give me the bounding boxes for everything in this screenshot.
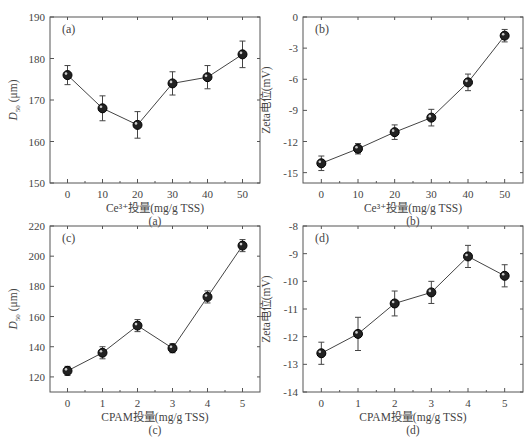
data-point-highlight bbox=[319, 160, 322, 163]
x-tick-label: 0 bbox=[65, 188, 71, 200]
data-point-highlight bbox=[319, 350, 322, 353]
data-point-highlight bbox=[205, 74, 208, 77]
y-tick-label: -3 bbox=[289, 42, 299, 54]
x-tick-label: 5 bbox=[502, 397, 508, 409]
data-point bbox=[238, 50, 247, 59]
data-point-highlight bbox=[465, 254, 468, 257]
data-point-highlight bbox=[429, 115, 432, 118]
x-tick-label: 5 bbox=[240, 397, 246, 409]
x-tick-label: 10 bbox=[353, 188, 365, 200]
x-tick-label: 0 bbox=[319, 188, 325, 200]
data-point bbox=[63, 71, 72, 80]
x-tick-label: 50 bbox=[237, 188, 249, 200]
data-point bbox=[238, 241, 247, 250]
x-axis-label: Ce³⁺投量(mg/g TSS) bbox=[106, 201, 204, 215]
chart-panel-a: 15016017018019001020304050(a)Ce³⁺投量(mg/g… bbox=[7, 11, 260, 228]
y-tick-label: 120 bbox=[29, 371, 46, 383]
y-tick-label: -12 bbox=[283, 136, 298, 148]
x-axis-label: CPAM投量(mg/g TSS) bbox=[359, 410, 466, 424]
data-point-highlight bbox=[392, 301, 395, 304]
panel-label: (a) bbox=[62, 22, 75, 36]
x-tick-label: 30 bbox=[167, 188, 179, 200]
data-point-highlight bbox=[100, 106, 103, 109]
data-point bbox=[390, 299, 399, 308]
data-point bbox=[168, 344, 177, 353]
y-tick-label: -15 bbox=[283, 167, 298, 179]
data-point bbox=[98, 348, 107, 357]
y-axis-label: Zeta电位(mV) bbox=[259, 66, 273, 134]
data-point bbox=[203, 73, 212, 82]
data-point-highlight bbox=[355, 146, 358, 149]
data-point-highlight bbox=[502, 33, 505, 36]
y-tick-label: -12 bbox=[283, 331, 298, 343]
data-point bbox=[168, 79, 177, 88]
data-point-highlight bbox=[392, 129, 395, 132]
data-point-highlight bbox=[465, 80, 468, 83]
panel-label: (d) bbox=[315, 231, 329, 245]
y-tick-label: 170 bbox=[29, 94, 46, 106]
x-axis-label: Ce³⁺投量(mg/g TSS) bbox=[364, 201, 462, 215]
data-point bbox=[203, 292, 212, 301]
x-tick-label: 0 bbox=[65, 397, 71, 409]
y-tick-label: 220 bbox=[29, 220, 46, 232]
x-tick-label: 40 bbox=[463, 188, 475, 200]
chart-panel-d: -14-13-12-11-10-9-8012345(d)CPAM投量(mg/g … bbox=[259, 220, 523, 437]
data-point bbox=[98, 104, 107, 113]
panel-label: (c) bbox=[62, 231, 75, 245]
y-tick-label: -8 bbox=[289, 220, 299, 232]
data-point bbox=[464, 252, 473, 261]
y-tick-label: 180 bbox=[29, 280, 46, 292]
panel-label: (b) bbox=[315, 22, 329, 36]
y-tick-label: 190 bbox=[29, 11, 46, 23]
plot-frame bbox=[50, 17, 260, 183]
y-tick-label: -13 bbox=[283, 358, 298, 370]
y-tick-label: 150 bbox=[29, 177, 46, 189]
data-point-highlight bbox=[135, 323, 138, 326]
x-tick-label: 1 bbox=[100, 397, 106, 409]
x-tick-label: 1 bbox=[355, 397, 361, 409]
data-point bbox=[133, 321, 142, 330]
x-tick-label: 4 bbox=[465, 397, 471, 409]
x-axis-label: CPAM投量(mg/g TSS) bbox=[101, 410, 208, 424]
plot-frame bbox=[303, 17, 523, 183]
data-point bbox=[427, 288, 436, 297]
data-point-highlight bbox=[65, 72, 68, 75]
data-point bbox=[133, 120, 142, 129]
data-point bbox=[390, 128, 399, 137]
data-point bbox=[354, 144, 363, 153]
chart-panel-b: -15-12-9-6-3001020304050(b)Ce³⁺投量(mg/g T… bbox=[259, 11, 523, 228]
x-tick-label: 30 bbox=[426, 188, 438, 200]
data-line bbox=[68, 54, 243, 125]
x-tick-label: 40 bbox=[202, 188, 214, 200]
y-tick-label: 0 bbox=[293, 11, 299, 23]
y-tick-label: -14 bbox=[283, 386, 298, 398]
data-point-highlight bbox=[240, 243, 243, 246]
y-tick-label: -6 bbox=[289, 73, 299, 85]
data-point bbox=[500, 31, 509, 40]
data-point bbox=[464, 78, 473, 87]
y-tick-label: 180 bbox=[29, 53, 46, 65]
data-point bbox=[427, 113, 436, 122]
y-tick-label: -10 bbox=[283, 275, 298, 287]
data-point bbox=[63, 366, 72, 375]
plot-frame bbox=[303, 226, 523, 392]
y-tick-label: -11 bbox=[284, 303, 298, 315]
panel-caption: (c) bbox=[149, 424, 162, 437]
x-tick-label: 2 bbox=[392, 397, 398, 409]
x-tick-label: 20 bbox=[132, 188, 144, 200]
data-point-highlight bbox=[170, 345, 173, 348]
plot-frame bbox=[50, 226, 260, 392]
data-line bbox=[321, 256, 504, 353]
panel-caption: (d) bbox=[406, 424, 420, 437]
y-axis-label: Zeta电位(mV) bbox=[259, 275, 273, 343]
y-tick-label: 160 bbox=[29, 136, 46, 148]
y-tick-label: -9 bbox=[289, 248, 299, 260]
x-tick-label: 3 bbox=[170, 397, 176, 409]
data-point-highlight bbox=[170, 81, 173, 84]
x-tick-label: 10 bbox=[97, 188, 109, 200]
y-tick-label: 160 bbox=[29, 311, 46, 323]
data-point-highlight bbox=[65, 368, 68, 371]
data-point-highlight bbox=[240, 52, 243, 55]
y-axis-label: D50 (μm) bbox=[7, 288, 22, 330]
chart-panel-c: 120140160180200220012345(c)CPAM投量(mg/g T… bbox=[7, 220, 260, 437]
